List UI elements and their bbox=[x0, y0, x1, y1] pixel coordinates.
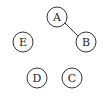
graph-diagram: A B C D E bbox=[0, 0, 105, 101]
node-e: E bbox=[13, 32, 33, 52]
node-e-label: E bbox=[19, 36, 27, 49]
node-c: C bbox=[62, 68, 82, 88]
node-c-label: C bbox=[68, 72, 76, 85]
node-b: B bbox=[76, 32, 96, 52]
edge-a-b bbox=[65, 23, 78, 36]
node-d: D bbox=[27, 68, 47, 88]
node-d-label: D bbox=[33, 72, 42, 85]
node-a: A bbox=[47, 7, 67, 27]
node-a-label: A bbox=[52, 11, 62, 24]
node-b-label: B bbox=[82, 36, 90, 49]
